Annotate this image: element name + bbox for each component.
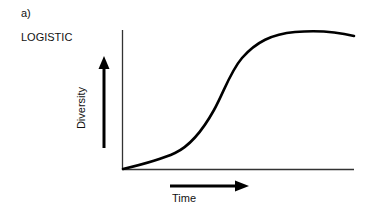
up-arrow-icon xyxy=(99,56,110,148)
logistic-diagram xyxy=(0,0,372,217)
right-arrow-icon xyxy=(170,181,249,192)
logistic-curve xyxy=(123,31,354,169)
